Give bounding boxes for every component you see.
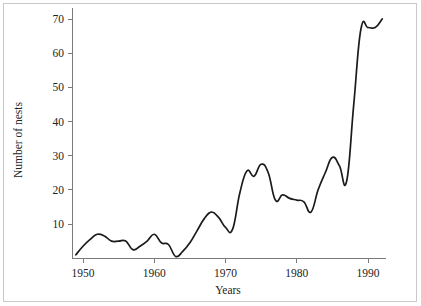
x-tick-label-1980: 1980 — [285, 267, 308, 279]
x-tick-labels: 19501960197019801990 — [72, 267, 380, 279]
chart-figure: 10203040506070 19501960197019801990 Numb… — [0, 0, 421, 306]
y-tick-label-20: 20 — [53, 184, 65, 196]
y-tick-label-40: 40 — [53, 116, 65, 128]
y-tick-label-70: 70 — [53, 13, 65, 25]
x-tick-label-1990: 1990 — [357, 267, 380, 279]
x-axis — [72, 258, 386, 263]
nests-trend-line — [76, 19, 382, 257]
y-tick-label-50: 50 — [53, 81, 65, 93]
line-chart-plot: 10203040506070 19501960197019801990 Numb… — [0, 0, 421, 306]
y-tick-label-60: 60 — [53, 47, 65, 59]
y-tick-label-30: 30 — [53, 150, 65, 162]
x-axis-label: Years — [215, 284, 241, 296]
x-tick-label-1950: 1950 — [72, 267, 95, 279]
y-axis — [68, 8, 72, 258]
x-tick-label-1970: 1970 — [214, 267, 237, 279]
y-tick-label-10: 10 — [53, 218, 65, 230]
y-axis-label: Number of nests — [12, 101, 24, 178]
x-tick-label-1960: 1960 — [143, 267, 166, 279]
y-tick-labels: 10203040506070 — [53, 13, 65, 230]
